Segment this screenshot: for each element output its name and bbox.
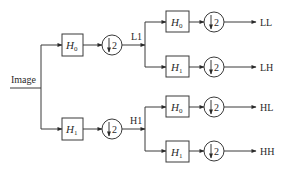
output-label-hh: HH [260, 146, 274, 157]
wavelet-filter-bank-diagram: Image H0 2 L1 H1 2 H1 H0 2 LL [0, 0, 284, 170]
svg-text:2: 2 [214, 146, 219, 157]
filter-h0-ll: H0 [166, 11, 189, 32]
svg-text:2: 2 [214, 17, 219, 28]
filter-h0-hl: H0 [166, 96, 189, 117]
svg-text:2: 2 [112, 124, 117, 135]
output-label-lh: LH [260, 62, 273, 73]
output-label-l1: L1 [131, 31, 142, 42]
filter-h1-hh: H1 [166, 141, 189, 162]
svg-text:2: 2 [214, 62, 219, 73]
filter-h0-stage1: H0 [62, 34, 83, 56]
output-label-h1: H1 [130, 115, 142, 126]
input-label: Image [11, 74, 37, 85]
output-label-hl: HL [260, 102, 273, 113]
downsample-high-stage1: 2 [102, 119, 122, 139]
output-label-ll: LL [260, 17, 272, 28]
svg-text:2: 2 [112, 40, 117, 51]
downsample-hh: 2 [204, 141, 224, 161]
downsample-ll: 2 [204, 12, 224, 32]
filter-h1-stage1: H1 [62, 118, 83, 140]
downsample-low-stage1: 2 [102, 35, 122, 55]
downsample-hl: 2 [204, 97, 224, 117]
downsample-lh: 2 [204, 57, 224, 77]
filter-h1-lh: H1 [166, 56, 189, 77]
svg-text:2: 2 [214, 102, 219, 113]
